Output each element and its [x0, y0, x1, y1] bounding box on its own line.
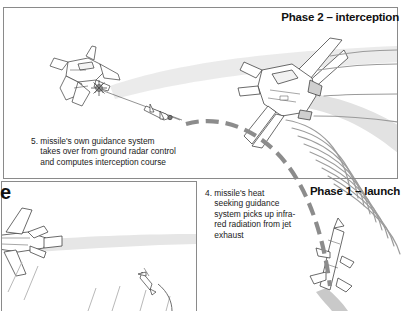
- panel-title-phase-1: Phase 1 – launch: [310, 185, 400, 197]
- panel-phase-1: [1, 181, 197, 311]
- callout-5-text: 5. missile's own guidance system takes o…: [31, 136, 176, 167]
- missile-exhaust-plume: [316, 288, 348, 311]
- panel-title-phase-2: Phase 2 – interception: [281, 11, 399, 23]
- cropped-text-fragment: e: [0, 182, 11, 202]
- diagram-canvas: Phase 2 – interception Phase 1 – launch …: [0, 0, 406, 311]
- callout-4-text: 4. missile's heat seeking guidance syste…: [205, 188, 295, 240]
